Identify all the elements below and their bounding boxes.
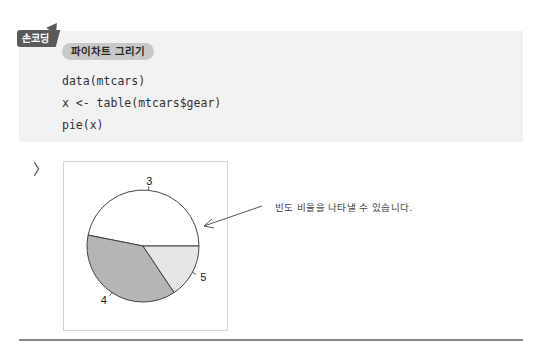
hand-coding-badge: 손코딩 [17, 30, 54, 47]
pie-slices [87, 190, 199, 302]
annotation-arrow [204, 206, 262, 226]
annotation-text: 빈도 비율을 나타낼 수 있습니다. [275, 200, 413, 214]
pie-label-tick [192, 272, 196, 274]
pie-slice-3 [88, 190, 199, 246]
pie-chart: 345 [0, 0, 541, 351]
pie-label: 5 [200, 271, 206, 283]
pie-label-tick [110, 293, 112, 296]
section-divider [19, 339, 523, 341]
pie-label: 3 [146, 175, 152, 187]
pie-label: 4 [101, 294, 107, 306]
